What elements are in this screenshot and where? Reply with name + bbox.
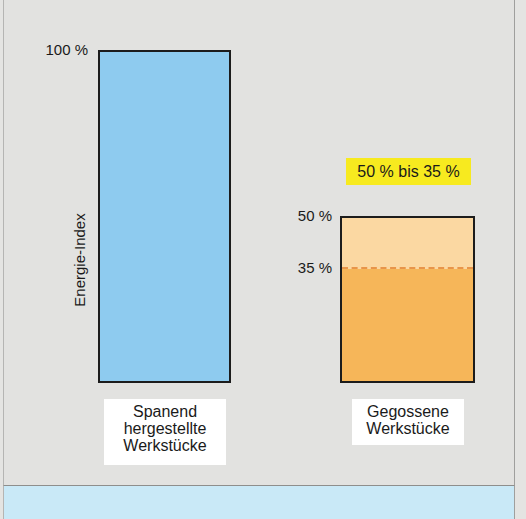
bar-gegossen-range — [342, 218, 473, 269]
tick-50: 50 % — [272, 207, 332, 224]
tick-35: 35 % — [272, 259, 332, 276]
bar-gegossen — [340, 216, 475, 383]
cat1-line1: Spanend — [110, 403, 220, 420]
y-axis-label: Energie-Index — [71, 213, 88, 306]
footer-band — [3, 486, 515, 519]
bar-spanend — [98, 50, 231, 383]
cat1-line3: Werkstücke — [110, 437, 220, 454]
range-annotation: 50 % bis 35 % — [346, 158, 471, 185]
cat2-line2: Werkstücke — [358, 420, 458, 437]
category-label-spanend: Spanend hergestellte Werkstücke — [104, 399, 226, 465]
cat1-line2: hergestellte — [110, 420, 220, 437]
cat2-line1: Gegossene — [358, 403, 458, 420]
category-label-gegossen: Gegossene Werkstücke — [352, 399, 464, 445]
tick-100: 100 % — [28, 41, 88, 58]
